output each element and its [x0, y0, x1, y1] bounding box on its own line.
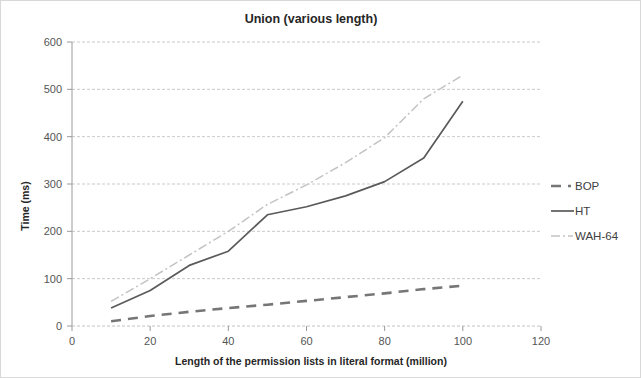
x-tick-label: 20 [144, 335, 156, 347]
chart-legend: BOP HT WAH-64 [551, 180, 619, 242]
y-tick-label: 600 [44, 36, 62, 48]
x-tick-label: 0 [69, 335, 75, 347]
y-tick-label: 200 [44, 225, 62, 237]
legend-label-bop: BOP [575, 180, 600, 192]
y-tick-label: 500 [44, 83, 62, 95]
y-tick-label: 100 [44, 273, 62, 285]
x-axis-title: Length of the permission lists in litera… [175, 355, 447, 367]
y-tick-label: 0 [56, 320, 62, 332]
chart-title: Union (various length) [245, 12, 378, 26]
legend-label-ht: HT [575, 205, 590, 217]
x-axis-ticks: 020406080100120 [69, 326, 550, 347]
y-axis-ticks: 0100200300400500600 [44, 36, 72, 332]
y-tick-label: 300 [44, 178, 62, 190]
chart-canvas: 0100200300400500600 020406080100120 Unio… [1, 1, 641, 378]
chart-figure: 0100200300400500600 020406080100120 Unio… [0, 0, 641, 378]
x-tick-label: 60 [300, 335, 312, 347]
x-tick-label: 120 [532, 335, 550, 347]
y-axis-title: Time (ms) [19, 181, 31, 230]
y-tick-label: 400 [44, 131, 62, 143]
x-tick-label: 40 [222, 335, 234, 347]
legend-label-wah-64: WAH-64 [575, 230, 619, 242]
x-tick-label: 80 [379, 335, 391, 347]
x-tick-label: 100 [454, 335, 472, 347]
